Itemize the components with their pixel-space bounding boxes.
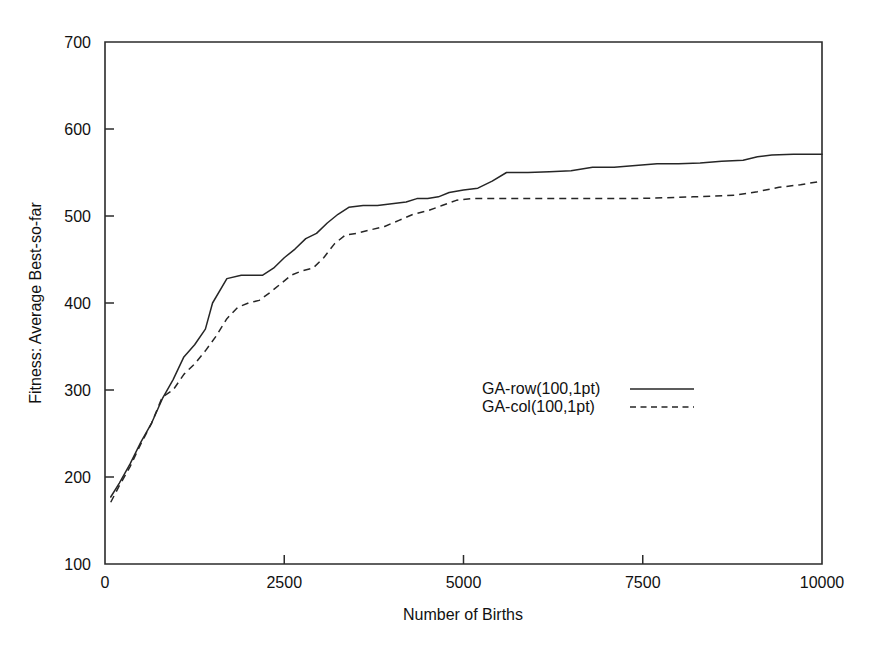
x-tick-label-0: 0 [101,574,110,591]
y-tick-label-500: 500 [64,208,91,225]
y-tick-label-300: 300 [64,382,91,399]
y-axis-title: Fitness: Average Best-so-far [27,202,44,404]
x-axis-ticks [284,555,643,564]
x-tick-label-10000: 10000 [800,574,845,591]
x-tick-label-7500: 7500 [625,574,661,591]
x-tick-label-2500: 2500 [266,574,302,591]
series-line-ga-col [111,181,822,502]
y-axis-ticks [105,129,114,477]
series-line-ga-row [111,154,822,497]
y-tick-label-600: 600 [64,121,91,138]
x-axis-title: Number of Births [403,606,523,623]
legend-label-ga-row: GA-row(100,1pt) [482,380,600,397]
chart-legend: GA-row(100,1pt) GA-col(100,1pt) [482,380,694,415]
y-tick-label-400: 400 [64,295,91,312]
x-axis-tick-labels: 025005000750010000 [101,574,845,591]
y-tick-label-100: 100 [64,556,91,573]
data-series-group [111,154,822,502]
y-tick-label-700: 700 [64,34,91,51]
y-axis-tick-labels: 100200300400500600700 [64,34,91,573]
plot-canvas: 100200300400500600700 025005000750010000… [0,0,881,645]
legend-label-ga-col: GA-col(100,1pt) [482,398,595,415]
x-tick-label-5000: 5000 [446,574,482,591]
y-tick-label-200: 200 [64,469,91,486]
chart-figure: 100200300400500600700 025005000750010000… [0,0,881,645]
